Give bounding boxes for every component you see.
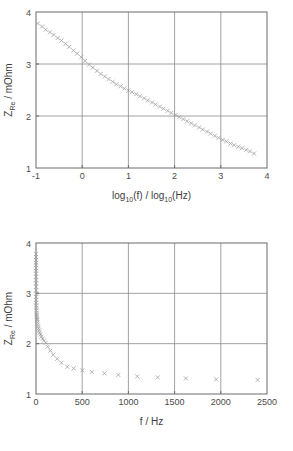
x-tick-label: 2500 (257, 397, 277, 407)
data-point-marker (59, 361, 63, 365)
data-point-marker (65, 365, 69, 369)
data-point-marker (107, 77, 111, 81)
data-point-marker (130, 90, 134, 94)
data-points-group (34, 252, 260, 382)
data-point-marker (229, 142, 233, 146)
data-point-marker (213, 134, 217, 138)
data-points-group (36, 21, 256, 155)
data-point-marker (154, 103, 158, 107)
data-point-marker (40, 25, 44, 29)
data-point-marker (158, 105, 162, 109)
y-tick-label: 2 (26, 112, 31, 122)
x-tick-label: 1500 (165, 397, 185, 407)
data-point-marker (67, 45, 71, 49)
data-point-marker (83, 59, 87, 63)
data-point-marker (189, 121, 193, 125)
x-axis-title: log10(f) / log10(Hz) (112, 190, 191, 203)
data-point-marker (44, 28, 48, 32)
data-point-marker (55, 357, 59, 361)
data-point-marker (79, 55, 83, 59)
data-point-marker (75, 52, 79, 56)
data-point-marker (166, 109, 170, 113)
data-point-marker (216, 136, 220, 140)
data-point-marker (252, 151, 256, 155)
data-point-marker (193, 123, 197, 127)
data-point-marker (64, 42, 68, 46)
data-point-marker (71, 48, 75, 52)
data-point-marker (122, 86, 126, 90)
y-tick-label: 3 (26, 60, 31, 70)
x-axis-title: f / Hz (140, 416, 163, 427)
data-point-marker (236, 145, 240, 149)
data-point-marker (248, 149, 252, 153)
data-point-marker (150, 100, 154, 104)
data-point-marker (48, 349, 52, 353)
data-point-marker (224, 139, 228, 143)
chart-panel-bottom: 050010001500200025001234f / HzZRe / mOhm (0, 226, 293, 451)
data-point-marker (232, 143, 236, 147)
data-point-marker (197, 125, 201, 129)
ticks-group: -1012341234 (26, 8, 270, 182)
data-point-marker (99, 72, 103, 76)
data-point-marker (59, 39, 63, 43)
data-point-marker (41, 337, 45, 341)
plot-frame (36, 243, 267, 394)
data-point-marker (52, 33, 56, 37)
data-point-marker (114, 82, 118, 86)
data-point-marker (240, 146, 244, 150)
data-point-marker (244, 148, 248, 152)
x-tick-label: 2 (172, 171, 177, 181)
data-point-marker (169, 111, 173, 115)
data-point-marker (134, 92, 138, 96)
data-point-marker (185, 119, 189, 123)
figure-container: -1012341234log10(f) / log10(Hz)ZRe / mOh… (0, 0, 293, 451)
y-axis-title: ZRe / mOhm (3, 63, 16, 116)
y-tick-label: 3 (26, 289, 31, 299)
x-tick-label: 2000 (211, 397, 231, 407)
scatter-plot-linear-frequency: 050010001500200025001234f / HzZRe / mOhm (0, 226, 293, 451)
data-point-marker (209, 132, 213, 136)
gridlines-group (36, 12, 267, 168)
y-tick-label: 1 (26, 390, 31, 400)
x-tick-label: 0 (80, 171, 85, 181)
x-tick-label: -1 (32, 171, 40, 181)
plot-frame (36, 12, 267, 168)
plot-frame-rect (36, 12, 267, 168)
data-point-marker (184, 376, 188, 380)
y-tick-label: 2 (26, 339, 31, 349)
data-point-marker (181, 117, 185, 121)
data-point-marker (102, 371, 106, 375)
x-tick-label: 4 (264, 171, 269, 181)
data-point-marker (156, 375, 160, 379)
plot-frame-rect (36, 243, 267, 394)
data-point-marker (72, 366, 76, 370)
data-point-marker (214, 377, 218, 381)
y-axis-title: ZRe / mOhm (3, 292, 16, 345)
data-point-marker (56, 36, 60, 40)
data-point-marker (103, 74, 107, 78)
gridlines-group (36, 243, 267, 394)
data-point-marker (138, 94, 142, 98)
data-point-marker (95, 69, 99, 73)
x-tick-label: 1 (126, 171, 131, 181)
data-point-marker (162, 107, 166, 111)
data-point-marker (48, 30, 52, 34)
y-tick-label: 4 (26, 239, 31, 249)
data-point-marker (135, 374, 139, 378)
data-point-marker (142, 96, 146, 100)
scatter-plot-log-frequency: -1012341234log10(f) / log10(Hz)ZRe / mOh… (0, 0, 293, 226)
y-tick-label: 1 (26, 164, 31, 174)
data-point-marker (116, 373, 120, 377)
data-point-marker (111, 80, 115, 84)
data-point-marker (87, 63, 91, 67)
x-tick-label: 3 (218, 171, 223, 181)
x-tick-label: 1000 (118, 397, 138, 407)
data-point-marker (51, 353, 55, 357)
data-point-marker (119, 84, 123, 88)
chart-panel-top: -1012341234log10(f) / log10(Hz)ZRe / mOh… (0, 0, 293, 226)
data-point-marker (201, 128, 205, 132)
y-tick-label: 4 (26, 8, 31, 18)
data-point-marker (90, 370, 94, 374)
x-tick-label: 500 (75, 397, 90, 407)
x-tick-label: 0 (33, 397, 38, 407)
